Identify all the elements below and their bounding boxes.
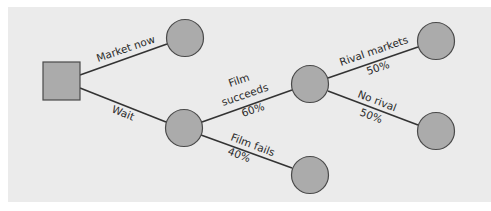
outcome-node-rival-markets bbox=[418, 23, 455, 60]
decision-tree-diagram: Market now Wait Film succeeds 60% Film f… bbox=[0, 0, 491, 211]
chance-node-film-succeeds bbox=[292, 66, 329, 103]
outcome-node-film-fails bbox=[292, 157, 329, 194]
outcome-node-market-now bbox=[167, 20, 204, 57]
outcome-node-no-rival bbox=[418, 113, 455, 150]
chance-node-wait bbox=[166, 110, 203, 147]
decision-node-square bbox=[43, 62, 80, 100]
